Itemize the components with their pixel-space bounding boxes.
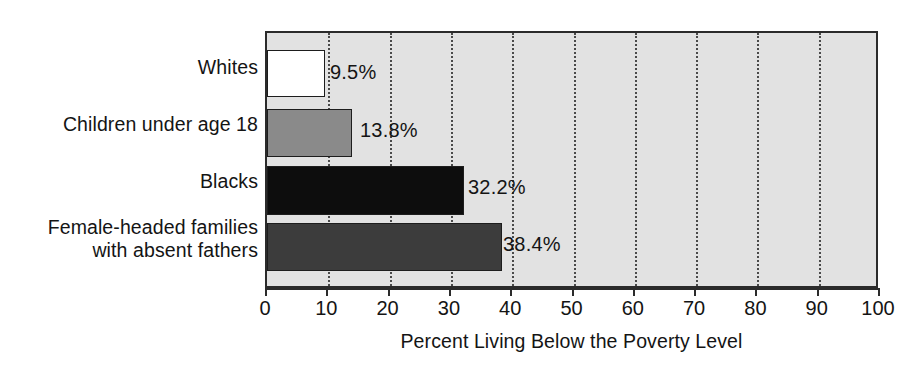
x-tick-label-90: 90 — [806, 297, 828, 319]
x-tick-label-80: 80 — [744, 297, 766, 319]
x-tick-0 — [265, 288, 267, 296]
x-tick-80 — [755, 288, 757, 296]
x-tick-label-70: 70 — [683, 297, 705, 319]
gridline-90 — [819, 33, 821, 286]
x-tick-50 — [572, 288, 574, 296]
bar-blacks — [267, 166, 464, 215]
x-axis-title: Percent Living Below the Poverty Level — [265, 330, 878, 353]
x-tick-20 — [388, 288, 390, 296]
bar-children-under-18 — [267, 109, 352, 157]
x-tick-label-100: 100 — [861, 297, 894, 319]
x-tick-label-60: 60 — [622, 297, 644, 319]
x-tick-90 — [817, 288, 819, 296]
value-label-female-headed-families: 38.4% — [503, 234, 561, 254]
x-tick-40 — [510, 288, 512, 296]
x-tick-70 — [694, 288, 696, 296]
category-label-blacks: Blacks — [200, 170, 258, 193]
x-tick-10 — [326, 288, 328, 296]
value-label-blacks: 32.2% — [468, 177, 526, 197]
x-tick-label-20: 20 — [376, 297, 398, 319]
x-tick-label-30: 30 — [438, 297, 460, 319]
category-label-children-under-18: Children under age 18 — [63, 113, 258, 136]
value-label-children-under-18: 13.8% — [360, 120, 418, 140]
x-tick-label-50: 50 — [560, 297, 582, 319]
gridline-60 — [635, 33, 637, 286]
poverty-bar-chart: Whites Children under age 18 Blacks Fema… — [0, 0, 923, 375]
gridline-80 — [757, 33, 759, 286]
value-label-whites: 9.5% — [330, 62, 376, 82]
x-tick-100 — [878, 288, 880, 296]
x-tick-label-0: 0 — [259, 297, 270, 319]
x-tick-30 — [449, 288, 451, 296]
gridline-70 — [696, 33, 698, 286]
category-label-female-headed-families: Female-headed families with absent fathe… — [48, 216, 258, 262]
x-tick-label-40: 40 — [499, 297, 521, 319]
gridline-50 — [574, 33, 576, 286]
x-tick-label-10: 10 — [315, 297, 337, 319]
x-tick-60 — [633, 288, 635, 296]
bar-whites — [267, 50, 325, 97]
bar-female-headed-families — [267, 223, 502, 271]
category-label-whites: Whites — [198, 56, 258, 79]
